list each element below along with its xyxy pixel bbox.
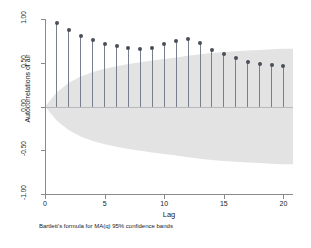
acf-stem	[128, 48, 129, 107]
x-axis-line	[45, 194, 293, 195]
acf-marker	[91, 38, 95, 42]
y-axis-tick	[41, 63, 45, 64]
acf-stem	[140, 49, 141, 107]
x-axis-tick-label: 5	[95, 200, 115, 207]
acf-marker	[174, 39, 178, 43]
acf-marker	[222, 52, 226, 56]
acf-marker	[79, 34, 83, 38]
acf-stem	[176, 41, 177, 107]
y-axis-tick	[41, 150, 45, 151]
x-axis-tick	[164, 195, 165, 199]
acf-stem	[56, 23, 57, 106]
acf-marker	[67, 28, 71, 32]
acf-marker	[246, 60, 250, 64]
x-axis-tick	[224, 195, 225, 199]
plot-area	[45, 19, 293, 194]
y-axis-tick	[41, 107, 45, 108]
acf-marker	[115, 44, 119, 48]
acf-marker	[210, 48, 214, 52]
y-axis-line	[45, 19, 46, 194]
acf-stem	[92, 40, 93, 107]
acf-stem	[259, 64, 260, 107]
acf-chart-figure: 1.000.500.00-0.50-1.00 05101520 Autocorr…	[0, 0, 311, 248]
acf-stem	[283, 66, 284, 106]
y-axis-tick-label: -1.00	[20, 176, 27, 210]
acf-marker	[198, 41, 202, 45]
acf-marker	[270, 63, 274, 67]
acf-stem	[247, 62, 248, 107]
acf-stem	[152, 48, 153, 107]
acf-stem	[68, 30, 69, 107]
acf-stem	[188, 39, 189, 106]
y-axis-label: Autocorrelations of air	[24, 19, 31, 159]
acf-stem	[80, 36, 81, 107]
x-axis-tick-label: 15	[214, 200, 234, 207]
y-axis-tick	[41, 19, 45, 20]
acf-stem	[223, 54, 224, 107]
acf-stem	[200, 43, 201, 107]
acf-stem	[271, 65, 272, 106]
acf-stem	[164, 44, 165, 106]
x-axis-tick	[45, 195, 46, 199]
acf-stem	[116, 46, 117, 106]
x-axis-label: Lag	[45, 210, 293, 219]
x-axis-tick-label: 10	[154, 200, 174, 207]
x-axis-tick-label: 20	[273, 200, 293, 207]
acf-marker	[103, 42, 107, 46]
x-axis-tick	[283, 195, 284, 199]
x-axis-tick	[105, 195, 106, 199]
acf-stem	[211, 50, 212, 107]
acf-stem	[235, 58, 236, 106]
acf-marker	[258, 62, 262, 66]
chart-footnote: Bartlett's formula for MA(q) 95% confide…	[39, 223, 173, 229]
acf-stem	[104, 44, 105, 107]
x-axis-tick-label: 0	[35, 200, 55, 207]
zero-reference-line	[45, 107, 293, 108]
